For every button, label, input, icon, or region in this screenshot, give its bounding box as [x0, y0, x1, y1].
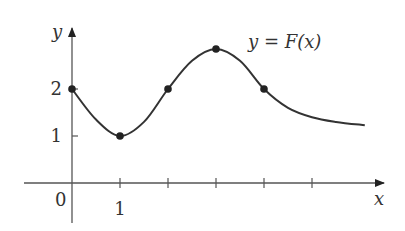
- axes: [24, 28, 384, 223]
- series-line-F: [72, 49, 365, 136]
- data-point: [68, 85, 76, 93]
- ticks: 112: [51, 78, 312, 219]
- data-point: [116, 132, 124, 140]
- x-axis-label: x: [374, 188, 384, 209]
- data-point: [164, 85, 172, 93]
- data-point: [260, 85, 268, 93]
- y-axis-label: y: [51, 21, 63, 42]
- origin-label: 0: [55, 189, 66, 210]
- curve-label: y = F(x): [247, 31, 321, 52]
- x-tick-label: 1: [114, 198, 125, 219]
- chart: 112 x y 0 y = F(x): [0, 0, 405, 231]
- y-tick-label: 2: [51, 78, 62, 99]
- y-tick-label: 1: [51, 125, 62, 146]
- data-point: [212, 45, 220, 53]
